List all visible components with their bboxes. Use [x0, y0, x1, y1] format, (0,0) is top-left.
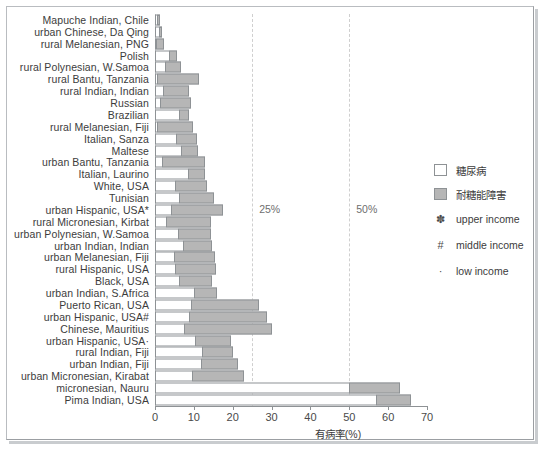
bar-row: urban Hispanic, USA* — [155, 204, 427, 216]
bar-row: urban Indian, Fiji — [155, 358, 427, 370]
bar-row-label: urban Hispanic, USA· — [46, 335, 149, 347]
bar-row: urban Chinese, Da Qing — [155, 26, 427, 38]
stacked-bar — [155, 181, 207, 192]
legend-swatch — [434, 188, 447, 200]
legend-swatch — [434, 164, 447, 176]
x-tick — [388, 406, 389, 410]
bar-row-label: Polish — [120, 50, 149, 62]
bar-segment-igt — [195, 335, 231, 346]
x-tick — [427, 406, 428, 410]
stacked-bar — [155, 98, 191, 109]
stacked-bar — [155, 157, 205, 168]
legend-label: middle income — [456, 239, 524, 251]
bar-segment-diabetes — [155, 311, 189, 322]
bar-segment-diabetes — [155, 169, 188, 180]
bar-segment-diabetes — [155, 157, 162, 168]
bar-row: Puerto Rican, USA — [155, 299, 427, 311]
bar-plot-area: Mapuche Indian, Chileurban Chinese, Da Q… — [155, 14, 427, 406]
x-tick — [155, 406, 156, 410]
stacked-bar — [155, 347, 233, 358]
bar-row: Russian — [155, 97, 427, 109]
stacked-bar — [155, 133, 197, 144]
bar-row-label: Chinese, Mauritius — [60, 323, 149, 335]
bar-segment-igt — [156, 38, 164, 49]
bar-row-label: urban Melanesian, Fiji — [44, 251, 149, 263]
bar-segment-diabetes — [155, 347, 202, 358]
bar-row-label: rural Melanesian, PNG — [41, 38, 149, 50]
stacked-bar — [155, 14, 160, 25]
stacked-bar — [155, 383, 400, 394]
bar-row-label: rural Hispanic, USA — [55, 263, 149, 275]
bar-row: urban Bantu, Tanzania — [155, 157, 427, 169]
x-tick-label: 0 — [152, 411, 158, 423]
stacked-bar — [155, 145, 198, 156]
bar-row: urban Indian, S.Africa — [155, 287, 427, 299]
stacked-bar — [155, 394, 411, 405]
bar-segment-diabetes — [155, 50, 169, 61]
bar-segment-diabetes — [155, 62, 165, 73]
bar-segment-igt — [179, 193, 214, 204]
bar-segment-diabetes — [155, 359, 201, 370]
legend-item: ·low income — [434, 258, 530, 284]
bar-row: urban Indian, Indian — [155, 240, 427, 252]
stacked-bar — [155, 26, 162, 37]
bar-segment-igt — [191, 299, 259, 310]
stacked-bar — [155, 50, 177, 61]
stacked-bar — [155, 74, 199, 85]
x-tick-label: 70 — [421, 411, 433, 423]
bar-segment-igt — [171, 204, 223, 215]
bar-row-label: Tunisian — [109, 192, 149, 204]
bar-row-label: urban Polynesian, W.Samoa — [14, 228, 149, 240]
bar-row-label: Pima Indian, USA — [65, 394, 149, 406]
legend-label: low income — [456, 265, 509, 277]
x-tick — [194, 406, 195, 410]
bar-segment-diabetes — [155, 383, 349, 394]
x-tick-label: 50 — [343, 411, 355, 423]
bar-segment-igt — [169, 50, 178, 61]
bar-segment-igt — [184, 323, 273, 334]
bar-segment-diabetes — [155, 204, 171, 215]
bar-row-label: rural Indian, Fiji — [75, 346, 149, 358]
x-tick-label: 40 — [304, 411, 316, 423]
bar-row: micronesian, Nauru — [155, 382, 427, 394]
bar-row: rural Polynesian, W.Samoa — [155, 62, 427, 74]
bar-segment-igt — [163, 86, 189, 97]
bar-row: rural Bantu, Tanzania — [155, 73, 427, 85]
bar-row-label: Russian — [110, 97, 149, 109]
x-axis-title: 有病率(%) — [0, 426, 542, 441]
bar-row: Black, USA — [155, 275, 427, 287]
legend-item: ✽upper income — [434, 206, 530, 232]
legend-item: 耐糖能障害 — [434, 182, 530, 206]
bar-row-label: rural Melanesian, Fiji — [50, 121, 149, 133]
stacked-bar — [155, 228, 211, 239]
legend-label: 糖尿病 — [456, 163, 486, 178]
bar-row: urban Melanesian, Fiji — [155, 252, 427, 264]
bar-segment-igt — [201, 359, 238, 370]
stacked-bar — [155, 193, 214, 204]
bar-row-label: urban Indian, Indian — [54, 240, 149, 252]
bar-segment-diabetes — [155, 299, 191, 310]
bar-row: Polish — [155, 50, 427, 62]
bar-row: Chinese, Mauritius — [155, 323, 427, 335]
bar-segment-diabetes — [155, 86, 163, 97]
bar-row-label: White, USA — [94, 180, 149, 192]
bar-row: Brazilian — [155, 109, 427, 121]
bar-row: Maltese — [155, 145, 427, 157]
bar-row-label: rural Bantu, Tanzania — [48, 73, 149, 85]
legend-symbol-icon: ✽ — [434, 214, 447, 225]
bar-row-label: Italian, Laurino — [79, 168, 149, 180]
chart-legend: 糖尿病耐糖能障害✽upper income#middle income·low … — [434, 158, 530, 284]
bar-segment-igt — [175, 181, 207, 192]
bar-row: rural Hispanic, USA — [155, 263, 427, 275]
bar-row-label: urban Micronesian, Kirabat — [21, 370, 149, 382]
legend-symbol-icon: # — [434, 240, 447, 251]
bar-row-label: Italian, Sanza — [84, 133, 149, 145]
bar-segment-diabetes — [155, 193, 179, 204]
bar-segment-diabetes — [155, 240, 183, 251]
bar-row-label: Black, USA — [95, 275, 149, 287]
bar-row-label: urban Indian, S.Africa — [46, 287, 149, 299]
stacked-bar — [155, 335, 231, 346]
bar-segment-igt — [157, 14, 161, 25]
stacked-bar — [155, 109, 189, 120]
bar-segment-igt — [183, 240, 212, 251]
